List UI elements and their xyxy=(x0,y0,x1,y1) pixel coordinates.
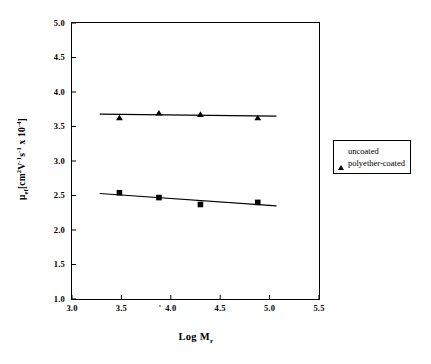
plot-area xyxy=(71,22,320,300)
triangle-marker-icon xyxy=(338,148,345,155)
y-tick-label: 1.5 xyxy=(39,260,65,269)
data-point-uncoated xyxy=(156,110,163,116)
x-tick-label: 5.5 xyxy=(306,304,332,313)
y-tick-label: 2.5 xyxy=(39,191,65,200)
y-axis-title-text: μef[cm2V-1s-1 x 10-4] xyxy=(17,118,27,200)
y-tick-label: 4.0 xyxy=(39,88,65,97)
legend-label-uncoated: uncoated xyxy=(348,147,379,156)
x-tick-label: 3.0 xyxy=(59,304,85,313)
data-point-polyether-coated xyxy=(198,202,204,208)
x-tick-label: 4.0 xyxy=(158,304,184,313)
y-tick-label: 5.0 xyxy=(39,19,65,28)
legend-label-polyether-coated: polyether-coated xyxy=(348,159,405,168)
data-point-uncoated xyxy=(197,111,204,117)
data-point-polyether-coated xyxy=(156,195,162,201)
data-point-uncoated xyxy=(116,115,123,121)
x-axis-title: Log Mr xyxy=(0,331,392,345)
chart-legend: uncoated polyether-coated xyxy=(333,140,411,174)
chart-figure: 5.04.54.03.53.02.52.01.51.0 3.03.54.04.5… xyxy=(0,0,431,364)
x-tick-label: 5.0 xyxy=(257,304,283,313)
y-tick-label: 3.5 xyxy=(39,122,65,131)
y-tick-label: 2.0 xyxy=(39,226,65,235)
plot-canvas xyxy=(72,23,319,299)
y-tick-label: 4.5 xyxy=(39,53,65,62)
legend-item-polyether-coated: polyether-coated xyxy=(338,157,405,169)
y-axis-title: μef[cm2V-1s-1 x 10-4] xyxy=(15,74,29,244)
y-tick-label: 3.0 xyxy=(39,157,65,166)
scan-artifact-speck xyxy=(159,305,161,307)
y-tick-label: 1.0 xyxy=(39,295,65,304)
data-point-polyether-coated xyxy=(117,190,123,196)
x-tick-label: 3.5 xyxy=(108,304,134,313)
trendline-polyether-coated xyxy=(100,193,277,205)
square-marker-icon xyxy=(338,160,345,167)
x-axis-title-text: Log Mr xyxy=(178,331,213,342)
data-point-polyether-coated xyxy=(255,200,261,206)
x-tick-label: 4.5 xyxy=(207,304,233,313)
trendline-uncoated xyxy=(100,114,277,116)
legend-item-uncoated: uncoated xyxy=(338,145,405,157)
